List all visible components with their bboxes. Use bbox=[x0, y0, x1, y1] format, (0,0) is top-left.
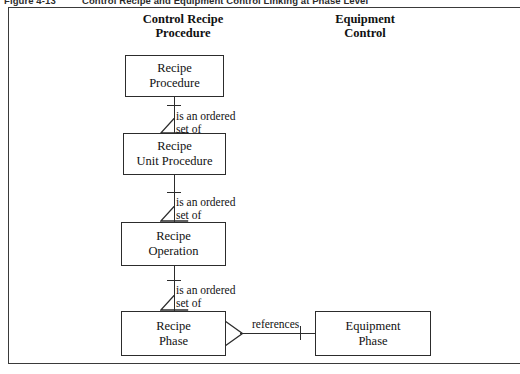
entity-label-line-1: Recipe bbox=[157, 139, 192, 154]
cardinality-tick-2 bbox=[167, 192, 181, 193]
arrowhead-notation-references bbox=[224, 320, 244, 347]
entity-label-line-1: Recipe bbox=[156, 319, 191, 334]
cardinality-tick-1 bbox=[167, 105, 181, 106]
relationship-label-ordered-1: is an ordered set of bbox=[176, 110, 235, 135]
figure-caption: Figure 4-13Control Recipe and Equipment … bbox=[4, 0, 368, 6]
relationship-label-line-1: is an ordered bbox=[176, 196, 235, 209]
entity-label-line-2: Phase bbox=[358, 334, 387, 349]
connector-line-phase-to-equipment-phase bbox=[240, 333, 315, 334]
column-header-line-1: Control Recipe bbox=[143, 12, 224, 26]
relationship-label-references: references bbox=[252, 318, 299, 331]
cardinality-tick-3 bbox=[167, 280, 181, 281]
relationship-label-line-2: set of bbox=[176, 297, 235, 310]
entity-box-recipe-unit-procedure[interactable]: Recipe Unit Procedure bbox=[123, 133, 226, 175]
entity-label-line-1: Recipe bbox=[156, 229, 191, 244]
relationship-label-line-2: set of bbox=[176, 209, 235, 222]
column-header-line-1: Equipment bbox=[335, 12, 395, 26]
entity-box-recipe-operation[interactable]: Recipe Operation bbox=[121, 222, 226, 266]
column-header-equipment-control: Equipment Control bbox=[300, 12, 430, 40]
entity-label-line-1: Recipe bbox=[157, 61, 192, 76]
relationship-label-line-1: is an ordered bbox=[176, 110, 235, 123]
relationship-label-line-1: is an ordered bbox=[176, 284, 235, 297]
entity-label-line-2: Operation bbox=[149, 244, 199, 259]
relationship-label-ordered-3: is an ordered set of bbox=[176, 284, 235, 309]
entity-box-recipe-procedure[interactable]: Recipe Procedure bbox=[125, 55, 224, 97]
entity-label-line-2: Phase bbox=[159, 334, 188, 349]
entity-label-line-2: Procedure bbox=[149, 76, 200, 91]
figure-number: Figure 4-13 bbox=[4, 0, 82, 6]
cardinality-tick-4 bbox=[300, 326, 301, 340]
figure-title: Control Recipe and Equipment Control Lin… bbox=[82, 0, 368, 6]
entity-box-equipment-phase[interactable]: Equipment Phase bbox=[315, 311, 431, 356]
column-header-control-recipe-procedure: Control Recipe Procedure bbox=[118, 12, 248, 40]
entity-box-recipe-phase[interactable]: Recipe Phase bbox=[121, 311, 226, 356]
figure-caption-strip: Figure 4-13Control Recipe and Equipment … bbox=[0, 0, 510, 7]
column-header-line-2: Control bbox=[300, 26, 430, 40]
relationship-label-ordered-2: is an ordered set of bbox=[176, 196, 235, 221]
entity-label-line-2: Unit Procedure bbox=[136, 154, 212, 169]
column-header-line-2: Procedure bbox=[118, 26, 248, 40]
entity-label-line-1: Equipment bbox=[346, 319, 401, 334]
figure-frame bbox=[8, 7, 520, 364]
relationship-label-line-1: references bbox=[252, 318, 299, 331]
